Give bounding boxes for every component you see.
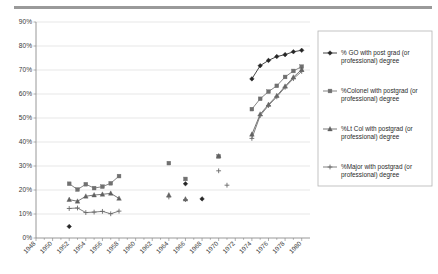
chart-svg: 0%10%20%30%40%50%60%70%80%90%19481950195… — [0, 0, 438, 274]
data-point-square — [267, 90, 271, 94]
x-axis-tick-label: 1954 — [72, 239, 87, 254]
data-point-square — [184, 177, 188, 181]
data-point-square — [117, 174, 121, 178]
data-point-square — [109, 181, 113, 185]
legend-label[interactable]: % GO with post grad (or — [341, 49, 410, 57]
y-axis-tick-label: 80% — [19, 42, 32, 49]
x-axis-tick-label: 1958 — [105, 239, 120, 254]
legend-label[interactable]: %Major with postgrad (or — [341, 163, 413, 171]
legend-label[interactable]: professional) degree — [341, 95, 400, 103]
data-point-square — [258, 97, 262, 101]
chart-screenshot: 0%10%20%30%40%50%60%70%80%90%19481950195… — [0, 0, 438, 274]
x-axis-tick-label: 1978 — [271, 239, 286, 254]
data-point-square — [275, 84, 279, 88]
legend-label[interactable]: professional) degree — [341, 133, 400, 141]
data-point-square — [67, 182, 71, 186]
data-point-square — [101, 185, 105, 189]
legend-label[interactable]: professional) degree — [341, 57, 400, 65]
data-point-diamond — [328, 51, 333, 56]
x-axis-tick-label: 1950 — [38, 239, 53, 254]
legend-label[interactable]: %Lt Col with postgrad (or — [341, 125, 414, 133]
chart-canvas: 0%10%20%30%40%50%60%70%80%90%19481950195… — [0, 0, 438, 274]
x-axis-tick-label: 1952 — [55, 239, 70, 254]
x-axis-tick-label: 1948 — [22, 239, 37, 254]
x-axis-tick-label: 1980 — [287, 239, 302, 254]
data-point-square — [92, 186, 96, 190]
x-axis-tick-label: 1974 — [238, 239, 253, 254]
y-axis-tick-label: 90% — [19, 18, 32, 25]
data-point-square — [84, 182, 88, 186]
data-point-square — [328, 89, 332, 93]
data-point-square — [283, 75, 287, 79]
x-axis-tick-label: 1966 — [171, 239, 186, 254]
y-axis-tick-label: 50% — [19, 114, 32, 121]
y-axis-tick-label: 20% — [19, 186, 32, 193]
x-axis-tick-label: 1960 — [121, 239, 136, 254]
x-axis-tick-label: 1962 — [138, 239, 153, 254]
y-axis-tick-label: 30% — [19, 162, 32, 169]
data-point-square — [291, 69, 295, 73]
x-axis-tick-label: 1964 — [155, 239, 170, 254]
y-axis-tick-label: 60% — [19, 90, 32, 97]
legend-label[interactable]: professional) degree — [341, 171, 400, 179]
x-axis-tick-label: 1972 — [221, 239, 236, 254]
legend-label[interactable]: %Colonel with postgrad (or — [341, 87, 419, 95]
x-axis-tick-label: 1970 — [204, 239, 219, 254]
x-axis-tick-label: 1976 — [254, 239, 269, 254]
data-point-square — [167, 161, 171, 165]
x-axis-tick-label: 1956 — [88, 239, 103, 254]
data-point-square — [250, 107, 254, 111]
y-axis-tick-label: 70% — [19, 66, 32, 73]
data-point-square — [76, 188, 80, 192]
x-axis-tick-label: 1968 — [188, 239, 203, 254]
y-axis-tick-label: 40% — [19, 138, 32, 145]
y-axis-tick-label: 10% — [19, 210, 32, 217]
